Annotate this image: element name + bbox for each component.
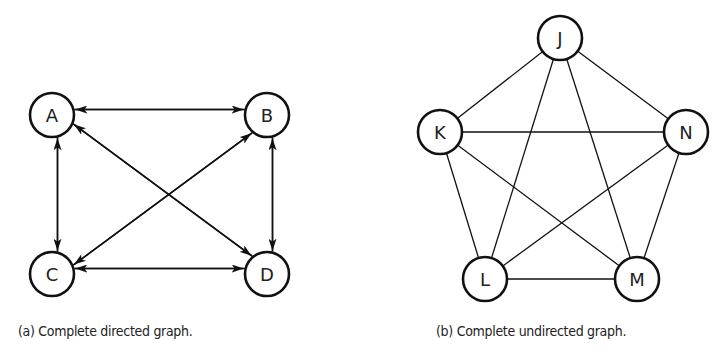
node-label: A xyxy=(46,105,59,126)
node-label: M xyxy=(629,269,645,290)
edge-d-to-a xyxy=(74,124,252,256)
node-label: N xyxy=(679,122,692,143)
directed-graph-edges xyxy=(58,110,273,269)
undirected-graph-nodes: JKNLM xyxy=(418,16,708,301)
undirected-graph-edges xyxy=(440,38,686,279)
undirected-node-n: N xyxy=(664,110,708,154)
node-label: B xyxy=(261,105,273,126)
caption-directed-graph: (a) Complete directed graph. xyxy=(18,323,192,339)
graph-diagram: ABCD JKNLM xyxy=(0,0,712,364)
node-label: L xyxy=(480,269,490,290)
undirected-node-k: K xyxy=(418,110,462,154)
edge-c-to-b xyxy=(73,133,251,265)
directed-node-d: D xyxy=(245,252,289,296)
node-label: J xyxy=(556,28,562,49)
edge-j-m xyxy=(560,38,637,279)
directed-graph-nodes: ABCD xyxy=(30,93,289,296)
undirected-node-j: J xyxy=(538,16,582,60)
node-label: D xyxy=(260,264,274,285)
edge-j-n xyxy=(560,38,686,132)
caption-undirected-graph: (b) Complete undirected graph. xyxy=(436,323,626,339)
edge-n-l xyxy=(485,132,686,279)
node-label: K xyxy=(434,122,447,143)
directed-node-b: B xyxy=(245,93,289,137)
directed-node-c: C xyxy=(30,252,74,296)
node-label: C xyxy=(46,264,59,285)
undirected-node-m: M xyxy=(615,257,659,301)
edge-j-l xyxy=(485,38,560,279)
edge-k-m xyxy=(440,132,637,279)
directed-node-a: A xyxy=(30,93,74,137)
undirected-node-l: L xyxy=(463,257,507,301)
